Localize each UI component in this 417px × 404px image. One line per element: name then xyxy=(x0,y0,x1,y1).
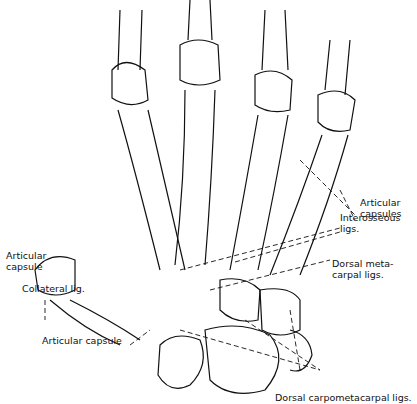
label-articular-capsule-bottom: Articular capsule xyxy=(42,335,122,346)
label-interosseous-ligs: Interosseous ligs. xyxy=(340,212,400,234)
label-dorsal-metacarpal-ligs: Dorsal meta- carpal ligs. xyxy=(332,258,394,280)
label-collateral-lig: Collateral lig. xyxy=(22,283,85,294)
hand-ligament-diagram: Articular capsules Interosseous ligs. Do… xyxy=(0,0,417,404)
label-articular-capsule-left: Articular capsule xyxy=(6,250,46,272)
label-dorsal-carpometacarpal-ligs: Dorsal carpometacarpal ligs. xyxy=(275,392,412,403)
